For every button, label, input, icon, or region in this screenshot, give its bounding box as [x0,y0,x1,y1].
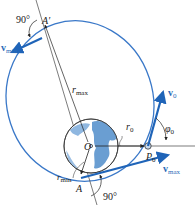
major-axis-line [36,0,97,205]
angle-90-top-label: 90° [16,14,30,25]
launch-point-label: P0 [145,151,156,164]
r0-label: r0 [126,121,134,134]
v0-label: v0 [168,87,177,100]
rmax-label: rmax [72,84,88,97]
rmin-label: rmin [57,172,72,184]
center-label: O [84,141,91,152]
angle-90-bottom-label: 90° [103,191,117,202]
right-angle-arc-bottom [91,175,101,196]
phi0-label: φ0 [165,123,175,136]
orbit-diagram: 90° A′ vmin rmax O r0 φ0 v0 P0 vmax rmin… [0,0,195,205]
v0-vector [148,92,163,146]
vmin-label: vmin [1,42,17,55]
perigee-label: A [75,183,83,194]
rmax-arrow [45,25,88,142]
vmax-label: vmax [163,163,181,176]
apogee-label: A′ [41,15,51,26]
